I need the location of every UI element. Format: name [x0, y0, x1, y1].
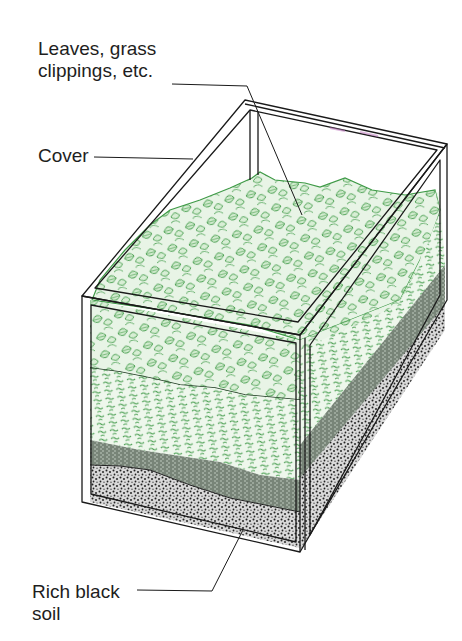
leader-soil: [137, 530, 243, 591]
label-leaves-line1: Leaves, grass: [38, 38, 156, 60]
frame-back-post: [250, 110, 258, 180]
label-soil-line2: soil: [32, 603, 120, 625]
label-cover: Cover: [38, 145, 89, 167]
leader-cover: [94, 157, 193, 159]
label-rich-black-soil: Rich black soil: [32, 581, 120, 625]
label-leaves-line2: clippings, etc.: [38, 60, 156, 82]
label-leaves-grass-clippings: Leaves, grass clippings, etc.: [38, 38, 156, 82]
label-soil-line1: Rich black: [32, 581, 120, 603]
compost-bin-diagram: [0, 0, 462, 641]
